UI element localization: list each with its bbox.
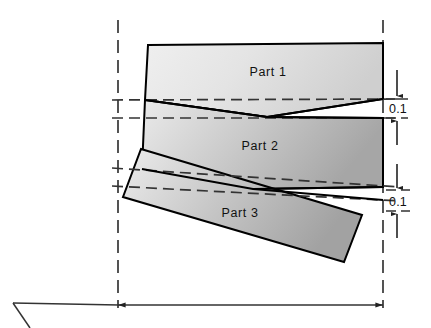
part-1-label: Part 1 xyxy=(250,65,287,79)
drawing-canvas: Part 1 Part 2 Part 3 xyxy=(0,0,431,328)
v-notch-lower-edge xyxy=(267,117,383,118)
width-dim-leader-horizontal xyxy=(13,303,119,305)
gap-dimension-bottom: 0.1 xyxy=(386,164,410,238)
width-dim-leader-diagonal xyxy=(13,303,30,328)
gap-dim-top-value: 0.1 xyxy=(389,102,407,116)
part-3-label: Part 3 xyxy=(222,206,259,220)
gap-dim-bottom-value: 0.1 xyxy=(389,195,407,209)
part-2-label: Part 2 xyxy=(242,139,279,153)
reference-line-top-1 xyxy=(112,99,400,100)
width-dimension-bottom xyxy=(13,303,383,328)
assembly-drawing-svg: Part 1 Part 2 Part 3 xyxy=(0,0,431,328)
gap-dimension-top: 0.1 xyxy=(386,70,408,145)
